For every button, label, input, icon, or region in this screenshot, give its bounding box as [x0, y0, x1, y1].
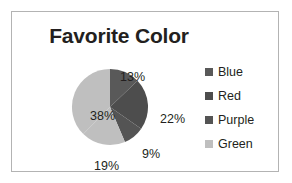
chart-frame: Favorite Color 13% 22% 9% 19% 38% Blue R…	[11, 11, 279, 172]
slice-label-blue: 13%	[120, 70, 145, 84]
legend-label-green: Green	[218, 137, 253, 151]
legend-swatch-green-icon	[205, 140, 213, 148]
chart-legend: Blue Red Purple Green	[205, 60, 277, 156]
slice-label-green-inner: 38%	[90, 109, 115, 123]
legend-item-red[interactable]: Red	[205, 84, 277, 108]
legend-swatch-purple-icon	[205, 116, 213, 124]
legend-swatch-blue-icon	[205, 68, 213, 76]
legend-label-blue: Blue	[218, 65, 243, 79]
slice-label-red: 22%	[160, 112, 185, 126]
legend-item-purple[interactable]: Purple	[205, 108, 277, 132]
legend-swatch-red-icon	[205, 92, 213, 100]
legend-item-blue[interactable]: Blue	[205, 60, 277, 84]
legend-label-purple: Purple	[218, 113, 254, 127]
legend-item-green[interactable]: Green	[205, 132, 277, 156]
pie-chart-plot-area: 13% 22% 9% 19% 38% Blue Red Purple Green	[12, 12, 280, 173]
legend-label-red: Red	[218, 89, 241, 103]
slice-label-green-outer: 19%	[94, 159, 119, 173]
slice-label-purple: 9%	[142, 147, 160, 161]
